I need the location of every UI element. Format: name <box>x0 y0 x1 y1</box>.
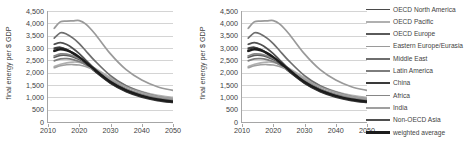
legend-label: Eastern Europe/Eurasia <box>393 42 463 50</box>
x-tick-label: 2020 <box>265 127 281 135</box>
legend-item[interactable]: Non-OECD Asia <box>366 115 441 126</box>
series-container-right <box>242 11 367 122</box>
y-tick-label: 3,000 <box>220 45 238 52</box>
line-series-right <box>242 11 367 122</box>
legend-swatch <box>366 33 390 35</box>
series-line <box>54 62 173 97</box>
y-tick-label: 4,000 <box>26 20 44 27</box>
legend-label: Middle East <box>393 55 427 63</box>
legend-label: OECD Europe <box>393 30 435 38</box>
legend: OECD North AmericaOECD PacificOECD Europ… <box>366 4 472 144</box>
legend-label: OECD Pacific <box>393 18 433 26</box>
y-tick-label: 3,500 <box>220 32 238 39</box>
y-tick-label: 4,000 <box>220 20 238 27</box>
legend-swatch <box>366 95 390 97</box>
series-line <box>54 65 173 99</box>
y-tick-label: 1,000 <box>220 94 238 101</box>
legend-item[interactable]: India <box>366 102 407 113</box>
figure: final energy per $ GDP 05001,0001,5002,0… <box>0 0 472 148</box>
legend-label: OECD North America <box>393 6 456 14</box>
y-tick-label: 2,000 <box>26 69 44 76</box>
legend-item[interactable]: Africa <box>366 90 410 101</box>
y-tick-label: 4,500 <box>220 8 238 15</box>
legend-swatch <box>366 119 390 121</box>
y-tick-label: 2,500 <box>220 57 238 64</box>
legend-label: India <box>393 104 407 112</box>
legend-swatch <box>366 46 390 48</box>
legend-item[interactable]: OECD Pacific <box>366 16 433 27</box>
series-line <box>248 65 367 99</box>
x-tick-label: 2050 <box>165 127 181 135</box>
x-tick-label: 2010 <box>234 127 250 135</box>
plot-area-left: 20102020203020402050 <box>47 11 173 123</box>
legend-label: Latin America <box>393 67 433 75</box>
legend-swatch <box>366 58 390 60</box>
x-axis-ticks-left: 20102020203020402050 <box>48 124 174 140</box>
legend-item[interactable]: Middle East <box>366 53 427 64</box>
x-tick-label: 2010 <box>40 127 56 135</box>
legend-item[interactable]: Latin America <box>366 66 433 77</box>
legend-item[interactable]: Eastern Europe/Eurasia <box>366 41 463 52</box>
x-tick-label: 2030 <box>297 127 313 135</box>
y-tick-label: 0 <box>40 119 44 126</box>
legend-swatch <box>366 82 390 84</box>
y-tick-label: 1,500 <box>26 82 44 89</box>
legend-item[interactable]: OECD North America <box>366 4 456 15</box>
y-tick-label: 1,500 <box>220 82 238 89</box>
y-tick-label: 1,000 <box>26 94 44 101</box>
legend-swatch <box>366 131 390 133</box>
legend-swatch <box>366 21 390 23</box>
y-tick-label: 500 <box>226 106 238 113</box>
legend-label: Non-OECD Asia <box>393 116 441 124</box>
y-tick-label: 500 <box>32 106 44 113</box>
legend-swatch <box>366 70 390 72</box>
x-tick-label: 2040 <box>134 127 150 135</box>
legend-label: Africa <box>393 92 410 100</box>
series-line <box>248 62 367 97</box>
y-tick-label: 2,500 <box>26 57 44 64</box>
legend-item[interactable]: OECD Europe <box>366 29 435 40</box>
legend-swatch <box>366 107 390 109</box>
series-line <box>248 33 367 100</box>
legend-label: weighted average <box>393 129 445 137</box>
y-tick-label: 2,000 <box>220 69 238 76</box>
x-tick-label: 2020 <box>71 127 87 135</box>
legend-item[interactable]: weighted average <box>366 127 445 138</box>
legend-swatch <box>366 9 390 11</box>
plot-area-right: 20102020203020402050 <box>241 11 367 123</box>
x-tick-label: 2040 <box>328 127 344 135</box>
series-line <box>54 33 173 100</box>
legend-item[interactable]: China <box>366 78 410 89</box>
y-tick-label: 3,000 <box>26 45 44 52</box>
legend-label: China <box>393 79 410 87</box>
x-tick-label: 2030 <box>103 127 119 135</box>
x-axis-ticks-right: 20102020203020402050 <box>242 124 368 140</box>
series-container-left <box>48 11 173 122</box>
line-series-left <box>48 11 173 122</box>
y-tick-label: 3,500 <box>26 32 44 39</box>
y-tick-label: 4,500 <box>26 8 44 15</box>
y-tick-label: 0 <box>234 119 238 126</box>
